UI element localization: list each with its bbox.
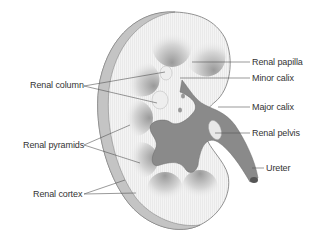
label-ureter: Ureter <box>266 163 290 173</box>
label-major-calix: Major calix <box>252 102 294 112</box>
label-renal-pyramids: Renal pyramids <box>23 140 84 150</box>
label-renal-papilla: Renal papilla <box>252 57 303 67</box>
label-minor-calix: Minor calix <box>252 73 294 83</box>
label-renal-cortex: Renal cortex <box>33 189 82 199</box>
kidney-diagram <box>0 0 311 249</box>
label-renal-pelvis: Renal pelvis <box>252 128 300 138</box>
label-renal-column: Renal column <box>30 80 84 90</box>
